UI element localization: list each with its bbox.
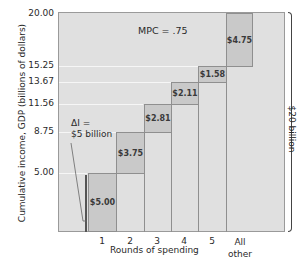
ytick-11-56: 11.56 <box>4 98 54 108</box>
xtick-5: 5 <box>198 236 226 246</box>
delta-i-line-2: $5 billion <box>71 129 112 140</box>
ytick-13-67: 13.67 <box>4 76 54 86</box>
delta-gdp-line-1: ΔGDP = <box>297 89 298 169</box>
delta-i-line-1: ΔI = <box>71 118 112 129</box>
ytick-15-25: 15.25 <box>4 60 54 70</box>
y-axis-label: Cumulative income, GDP (billions of doll… <box>17 23 27 223</box>
xtick-all-other: All other <box>225 236 255 258</box>
x-axis-label: Rounds of spending <box>110 245 199 255</box>
delta-i-annotation: ΔI = $5 billion <box>71 118 112 140</box>
ytick-20: 20.00 <box>4 8 54 18</box>
ytick-5: 5.00 <box>4 167 54 177</box>
delta-gdp-annotation: ΔGDP = $20 billion <box>286 89 298 169</box>
mpc-annotation: MPC = .75 <box>138 25 188 36</box>
ytick-8-75: 8.75 <box>4 126 54 136</box>
delta-gdp-line-2: $20 billion <box>286 89 297 169</box>
